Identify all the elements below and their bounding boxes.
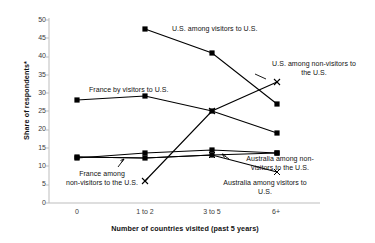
annotation-france-among-non-visitors-line1: France among [44,169,160,178]
annotation-australia-among-non-visitors-line1: Australia among non- [230,154,330,163]
annotation-australia-among-visitors-line1: Australia among visitors to [206,178,324,187]
annotation-australia-among-visitors-line2: U.S. [206,187,324,196]
annotation-australia-among-visitors: Australia among visitors to U.S. [206,178,324,196]
annotation-australia-among-non-visitors-line2: visitors to the U.S. [230,163,330,172]
annotation-france-among-non-visitors-line2: non-visitors to the U.S. [44,178,160,187]
annotation-us-among-non-visitors-line2: the U.S. [258,68,370,77]
annotation-france-by-visitors: France by visitors to U.S. [89,85,209,94]
chart-container: Share of respondents* Number of countrie… [0,0,375,243]
annotation-france-among-non-visitors: France among non-visitors to the U.S. [44,169,160,187]
plot-area [0,0,375,243]
annotation-us-among-visitors: U.S. among visitors to U.S. [172,24,282,33]
series-france-by-visitors [74,93,279,135]
annotation-us-among-non-visitors: U.S. among non-visitors to the U.S. [258,59,370,77]
annotation-australia-among-non-visitors: Australia among non- visitors to the U.S… [230,154,330,172]
annotation-us-among-non-visitors-line1: U.S. among non-visitors to [258,59,370,68]
